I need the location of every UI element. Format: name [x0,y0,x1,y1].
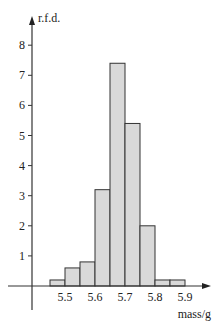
x-axis-arrow-icon [202,283,211,289]
histogram-bar [50,280,65,286]
histogram-bar [95,190,110,286]
x-tick-label: 5.6 [88,290,103,304]
y-tick-label: 4 [19,159,25,173]
x-axis-title: mass/g [178,307,211,321]
histogram-chart: 12345678 5.55.65.75.85.9 r.f.d. mass/g [0,0,223,330]
x-tick-label: 5.5 [58,290,73,304]
y-ticks: 12345678 [19,38,32,263]
y-tick-label: 8 [19,38,25,52]
y-axis-title: r.f.d. [38,11,60,25]
y-axis-arrow-icon [29,16,35,25]
y-tick-label: 7 [19,68,25,82]
histogram-bar [110,63,125,286]
histogram-bar [80,262,95,286]
y-tick-label: 3 [19,189,25,203]
x-tick-label: 5.8 [148,290,163,304]
y-tick-label: 2 [19,219,25,233]
x-ticks: 5.55.65.75.85.9 [58,290,193,304]
histogram-bar [170,280,185,286]
histogram-bar [155,280,170,286]
x-tick-label: 5.7 [118,290,133,304]
histogram-bar [125,123,140,286]
x-tick-label: 5.9 [178,290,193,304]
y-tick-label: 5 [19,129,25,143]
y-tick-label: 1 [19,249,25,263]
histogram-bars [50,63,185,286]
histogram-bar [65,268,80,286]
histogram-bar [140,226,155,286]
y-tick-label: 6 [19,98,25,112]
